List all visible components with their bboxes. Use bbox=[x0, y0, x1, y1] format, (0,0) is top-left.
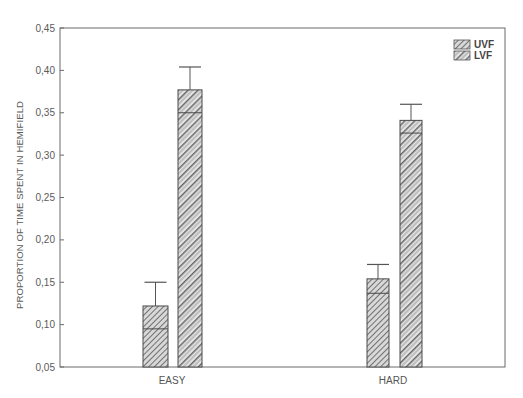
y-tick-label: 0,40 bbox=[36, 65, 56, 76]
bar-easy-uvf bbox=[143, 282, 168, 367]
legend-label-uvf: UVF bbox=[474, 39, 494, 50]
bar-hard-lvf bbox=[400, 104, 422, 367]
y-tick-label: 0,35 bbox=[36, 107, 56, 118]
bar-chart: 0,050,100,150,200,250,300,350,400,45 PRO… bbox=[0, 0, 523, 398]
legend-swatch-uvf bbox=[454, 40, 470, 49]
y-tick-label: 0,45 bbox=[36, 23, 56, 34]
plot-frame bbox=[60, 28, 505, 367]
y-axis-title: PROPORTION OF TIME SPENT IN HEMIFIELD bbox=[14, 101, 25, 309]
bar-easy-lvf bbox=[178, 67, 202, 367]
y-tick-label: 0,15 bbox=[36, 277, 56, 288]
x-label-hard: HARD bbox=[379, 375, 407, 386]
y-tick-label: 0,30 bbox=[36, 150, 56, 161]
legend-label-lvf: LVF bbox=[474, 50, 492, 61]
y-tick-label: 0,05 bbox=[36, 362, 56, 373]
legend: UVF LVF bbox=[454, 39, 494, 61]
bar-group bbox=[143, 67, 422, 367]
y-tick-label: 0,10 bbox=[36, 319, 56, 330]
bar-hard-uvf bbox=[367, 264, 389, 367]
y-tick-label: 0,20 bbox=[36, 234, 56, 245]
legend-swatch-lvf bbox=[454, 51, 470, 60]
x-label-easy: EASY bbox=[159, 375, 186, 386]
y-tick-label: 0,25 bbox=[36, 192, 56, 203]
